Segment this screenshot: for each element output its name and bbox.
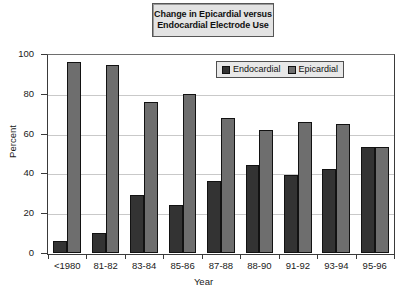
bar-group	[92, 54, 120, 253]
x-tick-label: 83-84	[125, 261, 163, 271]
bar-group	[361, 54, 389, 253]
bar-chart-figure: Change in Epicardial versus Endocardial …	[0, 0, 407, 303]
bar-endocardial	[92, 233, 106, 253]
legend-swatch-epicardial	[288, 66, 296, 74]
x-tick-mark	[86, 254, 87, 259]
legend-entry: Epicardial	[288, 65, 339, 74]
bar-group	[53, 54, 81, 253]
y-axis-title: Percent	[7, 112, 18, 172]
y-tick-label: 60	[10, 129, 34, 138]
bar-epicardial	[259, 130, 273, 253]
x-tick-label: 88-90	[240, 261, 278, 271]
bar-endocardial	[169, 205, 183, 253]
bar-endocardial	[284, 175, 298, 253]
bar-epicardial	[106, 65, 120, 253]
bar-group	[169, 54, 197, 253]
x-tick-mark	[394, 254, 395, 259]
x-tick-mark	[240, 254, 241, 259]
legend-label: Endocardial	[233, 65, 281, 74]
x-tick-label: 95-96	[356, 261, 394, 271]
bar-epicardial	[144, 102, 158, 253]
chart-title-line-1: Change in Epicardial versus	[154, 9, 272, 20]
x-tick-label: 87-88	[202, 261, 240, 271]
x-axis-title: Year	[0, 276, 407, 287]
bar-group	[130, 54, 158, 253]
chart-title-line-2: Endocardial Electrode Use	[157, 20, 269, 31]
legend-swatch-endocardial	[222, 66, 230, 74]
bar-epicardial	[298, 122, 312, 253]
x-tick-mark	[317, 254, 318, 259]
x-tick-label: <1980	[48, 261, 86, 271]
bar-group	[284, 54, 312, 253]
x-tick-label: 91-92	[279, 261, 317, 271]
bar-epicardial	[67, 62, 81, 253]
y-tick-label: 40	[10, 168, 34, 177]
x-tick-mark	[48, 254, 49, 259]
bar-group	[246, 54, 274, 253]
y-tick-label: 20	[10, 208, 34, 217]
x-tick-mark	[356, 254, 357, 259]
x-tick-mark	[279, 254, 280, 259]
bar-epicardial	[183, 94, 197, 253]
legend-entry: Endocardial	[222, 65, 281, 74]
bar-endocardial	[130, 195, 144, 253]
bar-group	[207, 54, 235, 253]
chart-title: Change in Epicardial versus Endocardial …	[152, 3, 274, 37]
bar-endocardial	[246, 165, 260, 253]
y-tick-label: 100	[10, 49, 34, 58]
chart-legend: EndocardialEpicardial	[216, 61, 344, 78]
bar-epicardial	[221, 118, 235, 253]
x-tick-mark	[163, 254, 164, 259]
bars-layer	[48, 54, 394, 253]
x-tick-label: 85-86	[163, 261, 201, 271]
bar-endocardial	[322, 169, 336, 253]
bar-epicardial	[375, 147, 389, 253]
y-tick-label: 80	[10, 89, 34, 98]
bar-endocardial	[53, 241, 67, 253]
bar-epicardial	[336, 124, 350, 253]
y-tick-label: 0	[10, 248, 34, 257]
x-tick-label: 93-94	[317, 261, 355, 271]
bar-group	[322, 54, 350, 253]
bar-endocardial	[361, 147, 375, 253]
x-tick-mark	[202, 254, 203, 259]
bar-endocardial	[207, 181, 221, 253]
x-tick-label: 81-82	[86, 261, 124, 271]
x-tick-mark	[125, 254, 126, 259]
legend-label: Epicardial	[299, 65, 339, 74]
